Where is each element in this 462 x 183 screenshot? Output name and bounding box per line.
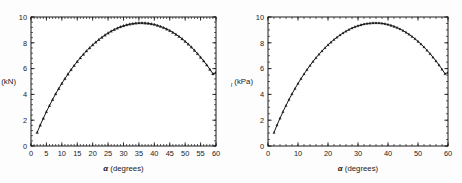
- y-tick-label: 10: [256, 13, 264, 22]
- x-tick-label: 5: [44, 149, 48, 158]
- y-tick-label: 2: [260, 116, 264, 125]
- x-axis-title: α (degrees): [103, 164, 144, 173]
- y-tick-label: 6: [23, 64, 27, 73]
- x-tick-label: 15: [73, 149, 81, 158]
- y-tick-label: 2: [23, 116, 27, 125]
- x-tick-label: 45: [166, 149, 174, 158]
- y-tick-label: 4: [23, 90, 27, 99]
- x-tick-label: 10: [294, 149, 302, 158]
- x-tick-label: 10: [58, 149, 66, 158]
- x-tick-label: 25: [104, 149, 112, 158]
- x-tick-label: 60: [444, 149, 452, 158]
- x-tick-label: 55: [196, 149, 204, 158]
- y-tick-label: 8: [260, 39, 264, 48]
- x-tick-label: 20: [324, 149, 332, 158]
- y-tick-label: 0: [23, 142, 27, 151]
- y-tick-label: 8: [23, 39, 27, 48]
- y-axis-title: E (kN): [0, 77, 16, 86]
- x-tick-label: 40: [384, 149, 392, 158]
- x-tick-label: 50: [181, 149, 189, 158]
- plot-background: [31, 17, 216, 146]
- chart-panel-right: 01020304050600246810α (degrees)peq (kPa): [231, 0, 462, 183]
- figure-container: 0510152025303540455055600246810α (degree…: [0, 0, 462, 183]
- x-tick-label: 30: [354, 149, 362, 158]
- x-tick-label: 0: [266, 149, 270, 158]
- x-tick-label: 40: [150, 149, 158, 158]
- x-tick-label: 50: [414, 149, 422, 158]
- x-tick-label: 30: [119, 149, 127, 158]
- chart-panel-left: 0510152025303540455055600246810α (degree…: [0, 0, 231, 183]
- x-axis-title: α (degrees): [338, 164, 379, 173]
- y-tick-label: 10: [19, 13, 27, 22]
- plot-background: [268, 17, 448, 146]
- chart-left-svg: 0510152025303540455055600246810α (degree…: [0, 0, 231, 183]
- x-tick-label: 0: [29, 149, 33, 158]
- y-tick-label: 6: [260, 64, 264, 73]
- y-tick-label: 4: [260, 90, 264, 99]
- x-tick-label: 60: [212, 149, 220, 158]
- x-tick-label: 35: [135, 149, 143, 158]
- chart-right-svg: 01020304050600246810α (degrees)peq (kPa): [231, 0, 462, 183]
- y-axis-title: peq (kPa): [231, 77, 253, 87]
- y-tick-label: 0: [260, 142, 264, 151]
- x-tick-label: 20: [89, 149, 97, 158]
